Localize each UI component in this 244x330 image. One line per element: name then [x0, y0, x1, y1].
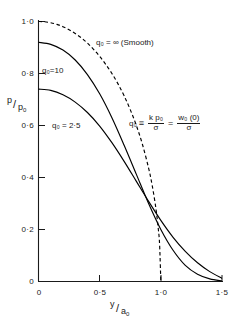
x-tick-label-1-0: 1·0: [148, 288, 174, 297]
curve-label-q0-infinity: q₀ = ∞ (Smooth): [96, 38, 154, 47]
curve-q0-infinity: [39, 22, 161, 282]
identity-symbol: q₀: [129, 119, 137, 128]
y-tick-label-0-6: 0·6: [4, 121, 34, 130]
y-axis-ticks: [39, 22, 46, 230]
identity-term-1-numerator: k p₀: [148, 114, 164, 122]
y-axis-title-denominator: p0: [18, 103, 26, 112]
identity-term-1: k p₀ σ: [148, 114, 164, 133]
y-tick-label-0-8: 0·8: [4, 69, 34, 78]
curve-label-q0-2-5: q₀ = 2·5: [52, 121, 80, 130]
curve-q0-10: [39, 42, 223, 281]
x-axis-title: y / a0: [110, 300, 142, 322]
y-axis-title-numerator: p: [7, 96, 12, 105]
identity-term-2-numerator: w₀ (0): [177, 114, 200, 122]
chart-figure: 1·0 0·8 0·6 0·4 0·2 0 0 0·5 1·0 1·5 p / …: [0, 0, 244, 330]
identity-term-2-denominator: σ: [177, 124, 200, 132]
y-axis-title: p / p0: [7, 96, 35, 118]
y-tick-label-0-4: 0·4: [4, 173, 34, 182]
identity-equals-sign: =: [168, 118, 173, 128]
x-axis-title-slash: /: [116, 303, 119, 315]
x-tick-label-0-5: 0·5: [87, 288, 113, 297]
plot-canvas: [0, 0, 244, 330]
identity-annotation: q₀ ≡ k p₀ σ = w₀ (0) σ: [129, 114, 202, 133]
x-tick-label-0: 0: [30, 288, 48, 297]
axis-lines: [38, 20, 223, 282]
x-axis-title-denominator: a0: [121, 307, 129, 316]
identity-term-1-denominator: σ: [148, 124, 164, 132]
y-tick-label-1-0: 1·0: [4, 17, 34, 26]
y-tick-label-0-2: 0·2: [4, 225, 34, 234]
x-axis-title-numerator: y: [110, 300, 115, 309]
identity-equiv-sign: ≡: [139, 118, 144, 128]
x-tick-label-1-5: 1·5: [209, 288, 235, 297]
y-tick-label-0: 0: [4, 277, 34, 286]
y-axis-title-slash: /: [13, 99, 16, 111]
curve-label-q0-10: q₀=10: [42, 66, 63, 75]
identity-term-2: w₀ (0) σ: [177, 114, 200, 133]
